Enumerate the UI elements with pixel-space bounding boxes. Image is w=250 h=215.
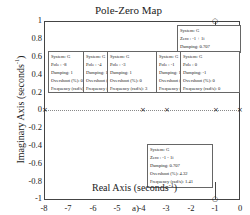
datatip-pole: System: GPole : -1Damping: 1Overshoot (%… <box>156 51 181 93</box>
figure-caption: a) <box>132 203 139 213</box>
y-tick: -0.6 <box>12 158 42 168</box>
pole-marker-icon: × <box>140 107 146 114</box>
datatip-pole: System: GPole : -3Damping: 1Overshoot (%… <box>107 51 157 93</box>
y-tick: 0.6 <box>12 51 42 61</box>
x-tick: -3 <box>156 203 176 213</box>
y-tick: 0.2 <box>12 87 42 97</box>
x-tick: -7 <box>58 203 78 213</box>
pole-marker-icon: × <box>164 107 170 114</box>
y-tick: 0.4 <box>12 69 42 79</box>
y-tick: 1 <box>12 15 42 25</box>
x-tick: -5 <box>107 203 127 213</box>
x-tick: -8 <box>34 203 54 213</box>
y-tick: -0.8 <box>12 176 42 186</box>
datatip-pole: System: GPole : -4Damping: 1Overshoot (%… <box>83 51 108 93</box>
x-tick: -1 <box>205 203 225 213</box>
plot-area: System: GZero : -1 + 1iDamping: 0.707 Sy… <box>44 21 240 200</box>
pole-marker-icon: × <box>213 107 219 114</box>
pole-marker-icon: × <box>237 107 243 114</box>
y-tick: -0.2 <box>12 122 42 132</box>
datatip-zero-upper: System: GZero : -1 + 1iDamping: 0.707 <box>177 25 241 53</box>
chart-title: Pole-Zero Map <box>95 4 162 16</box>
y-tick: -0.4 <box>12 140 42 150</box>
datatip-pole: System: GPole : -8Damping: 1Overshoot (%… <box>48 51 84 93</box>
x-tick: -6 <box>83 203 103 213</box>
x-axis-label: Real Axis (seconds-1) <box>92 182 177 193</box>
zero-marker-icon: ○ <box>212 196 218 203</box>
y-tick: 0.8 <box>12 33 42 43</box>
pole-marker-icon: × <box>42 107 48 114</box>
y-tick: -1 <box>12 193 42 203</box>
x-tick: 0 <box>230 203 250 213</box>
zero-marker-icon: ○ <box>212 18 218 25</box>
datatip-pole: System: GPole : 0Damping: -1Overshoot (%… <box>180 51 240 93</box>
y-tick: 0 <box>12 104 42 114</box>
x-tick: -2 <box>181 203 201 213</box>
